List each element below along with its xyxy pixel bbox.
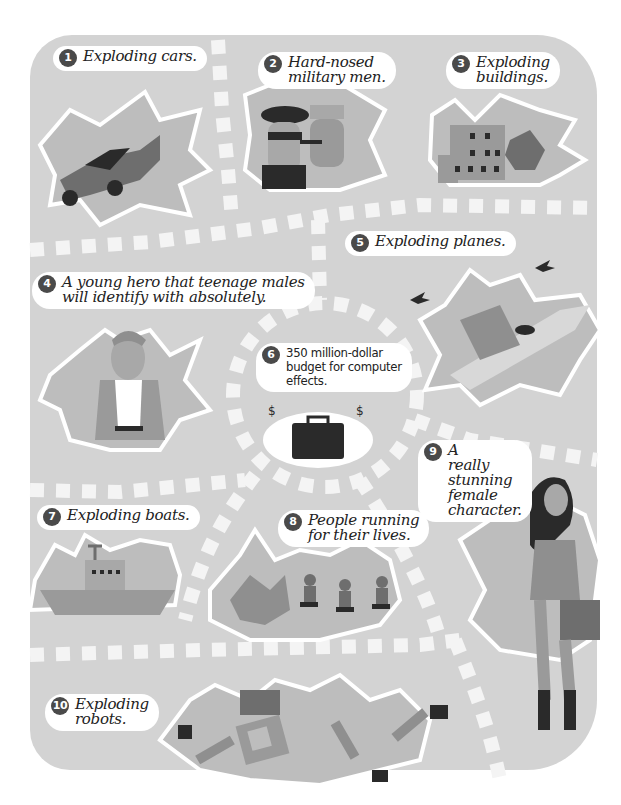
svg-text:$: $ [356,404,364,418]
item-9-text: A really stunning female character. [448,443,522,518]
item-6-text: 350 million-dollar budget for computer e… [286,346,402,388]
item-2-text: Hard-nosed military men. [288,55,386,85]
number-badge-8: 8 [284,513,302,531]
briefcase-money-icon: $ $ [263,404,373,468]
number-badge-6: 6 [262,346,280,364]
item-8-text: People running for their lives. [308,513,419,543]
illustration-board: $ $ [0,0,621,805]
svg-text:$: $ [268,404,276,418]
item-3-label: 3 Exploding buildings. [446,52,560,89]
item-5-text: Exploding planes. [375,234,506,249]
item-8-label: 8 People running for their lives. [278,510,429,547]
plane-icon [410,260,600,405]
item-6-label: 6 350 million-dollar budget for computer… [256,343,412,392]
item-5-label: 5 Exploding planes. [345,231,516,256]
number-badge-4: 4 [38,275,56,293]
number-badge-9: 9 [424,443,442,461]
number-badge-3: 3 [452,55,470,73]
item-1-label: 1 Exploding cars. [53,46,207,71]
item-4-text: A young hero that teenage males will ide… [62,275,305,305]
item-7-label: 7 Exploding boats. [37,505,200,530]
number-badge-1: 1 [59,49,77,67]
car-icon [40,92,210,225]
hero-icon [40,330,210,450]
item-10-text: Exploding robots. [75,697,149,727]
boat-icon [30,535,180,615]
item-1-text: Exploding cars. [83,49,197,64]
item-4-label: 4 A young hero that teenage males will i… [32,272,315,309]
item-9-label: 9 A really stunning female character. [418,440,532,522]
building-icon [430,95,585,185]
number-badge-10: 10 [51,697,69,715]
item-3-text: Exploding buildings. [476,55,550,85]
item-7-text: Exploding boats. [67,508,190,523]
number-badge-5: 5 [351,234,369,252]
item-2-label: 2 Hard-nosed military men. [258,52,396,89]
item-10-label: 10 Exploding robots. [45,694,159,731]
number-badge-7: 7 [43,508,61,526]
robot-icon [160,675,448,785]
number-badge-2: 2 [264,55,282,73]
artwork: $ $ [0,0,621,805]
